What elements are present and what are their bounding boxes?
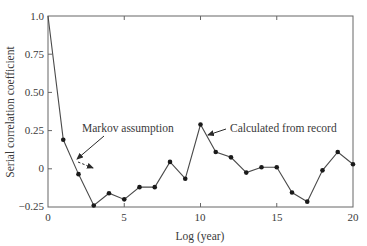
y-axis-label: Serial correlation coefficient — [4, 46, 16, 178]
data-point-marker — [137, 185, 142, 190]
y-tick-label: 0.50 — [25, 86, 45, 98]
data-point-marker — [152, 185, 157, 190]
x-tick-labels: 0 5 10 15 20 — [45, 211, 359, 223]
x-tick-label: 15 — [272, 211, 284, 223]
calculated-arrow-icon — [208, 129, 226, 135]
series-line — [48, 16, 353, 206]
data-point-marker — [91, 203, 96, 208]
data-point-marker — [274, 165, 279, 170]
x-tick-label: 10 — [195, 211, 207, 223]
data-point-marker — [229, 155, 234, 160]
markov-dashed-arrow-icon — [78, 162, 93, 168]
data-point-marker — [213, 150, 218, 155]
y-tick-label: 0 — [39, 162, 45, 174]
data-point-marker — [305, 199, 310, 204]
data-point-marker — [320, 168, 325, 173]
data-point-marker — [183, 176, 188, 181]
x-tick-label: 0 — [45, 211, 51, 223]
markov-annotation: Markov assumption — [82, 122, 174, 135]
chart-container: 1.0 0.75 0.50 0.25 0 −0.25 0 5 10 15 20 … — [0, 0, 367, 246]
y-tick-labels: 1.0 0.75 0.50 0.25 0 −0.25 — [19, 10, 45, 212]
data-point-marker — [259, 165, 264, 170]
data-point-marker — [122, 197, 127, 202]
data-point-marker — [244, 170, 249, 175]
chart-svg: 1.0 0.75 0.50 0.25 0 −0.25 0 5 10 15 20 … — [0, 0, 367, 246]
data-point-marker — [168, 160, 173, 165]
data-point-marker — [107, 191, 112, 196]
data-point-marker — [351, 162, 356, 167]
x-axis-label: Log (year) — [176, 230, 225, 243]
x-tick-label: 20 — [348, 211, 360, 223]
data-point-marker — [290, 190, 295, 195]
data-point-marker — [61, 137, 66, 142]
data-point-marker — [76, 172, 81, 177]
calculated-annotation: Calculated from record — [230, 122, 337, 134]
plot-frame — [48, 16, 353, 207]
y-tick-label: 0.75 — [25, 48, 45, 60]
markov-arrow-icon — [77, 136, 104, 159]
y-tick-label: 1.0 — [30, 10, 44, 22]
data-point-marker — [198, 122, 203, 127]
y-tick-label: 0.25 — [25, 124, 45, 136]
y-tick-label: −0.25 — [19, 200, 45, 212]
axis-ticks — [48, 16, 277, 207]
data-point-marker — [335, 150, 340, 155]
x-tick-label: 5 — [121, 211, 127, 223]
